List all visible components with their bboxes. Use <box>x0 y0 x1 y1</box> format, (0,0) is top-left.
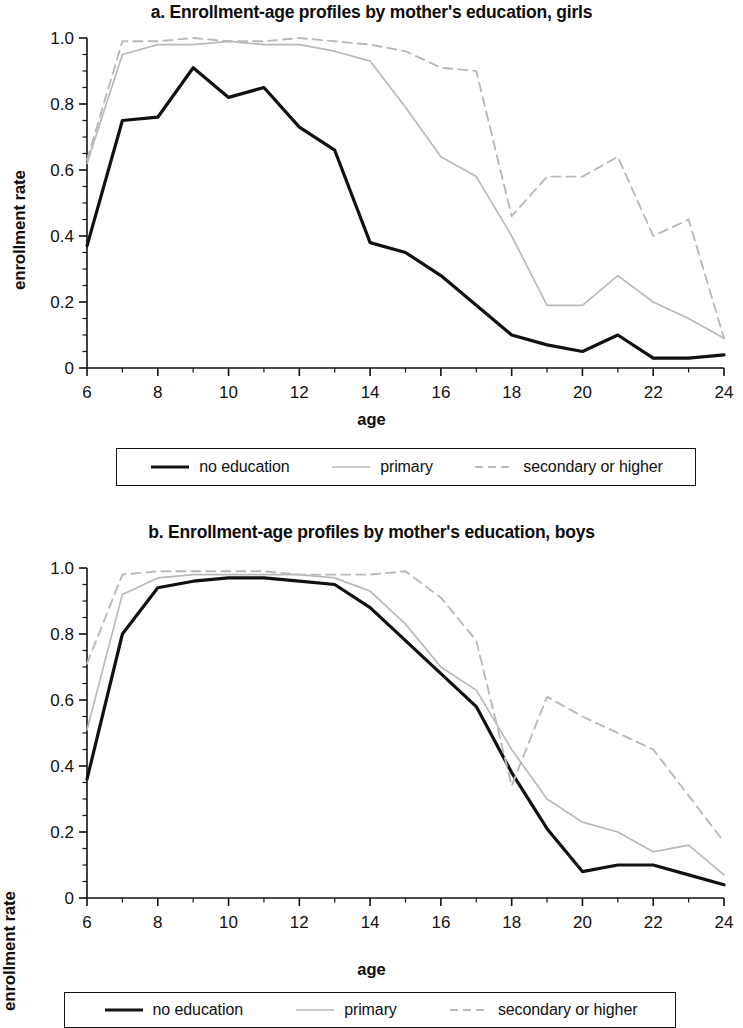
x-tick-label: 20 <box>573 913 592 932</box>
y-tick-label: 1.0 <box>50 29 74 48</box>
legend-label: primary <box>380 458 433 476</box>
panel-b-chart-svg: 00.20.40.60.81.0681012141618202224 <box>0 550 743 950</box>
y-tick-label: 0 <box>65 889 74 908</box>
panel-a-girls: a. Enrollment-age profiles by mother's e… <box>0 0 743 500</box>
legend-swatch-solid-icon <box>294 1003 336 1017</box>
y-tick-label: 0.2 <box>50 823 74 842</box>
panel-b-y-axis-label: enrollment rate <box>0 891 20 1011</box>
x-tick-label: 22 <box>644 913 663 932</box>
x-tick-label: 14 <box>361 383 380 400</box>
x-tick-label: 10 <box>219 913 238 932</box>
y-tick-label: 0 <box>65 359 74 378</box>
legend-item-secondary-or-higher[interactable]: secondary or higher <box>448 1001 638 1019</box>
y-tick-label: 0.8 <box>50 625 74 644</box>
panel-b-legend: no educationprimarysecondary or higher <box>64 992 676 1028</box>
panel-b-x-axis-label: age <box>0 960 743 979</box>
x-tick-label: 6 <box>82 383 91 400</box>
y-tick-label: 0.2 <box>50 293 74 312</box>
x-tick-label: 18 <box>502 913 521 932</box>
x-tick-label: 18 <box>502 383 521 400</box>
legend-item-no-education[interactable]: no education <box>149 458 289 476</box>
y-tick-label: 0.6 <box>50 691 74 710</box>
legend-item-primary[interactable]: primary <box>330 458 433 476</box>
x-tick-label: 12 <box>290 913 309 932</box>
legend-swatch-solid-icon <box>330 460 372 474</box>
y-tick-label: 0.4 <box>50 757 74 776</box>
panel-b-plot-area: 00.20.40.60.81.0681012141618202224 <box>0 550 743 950</box>
panel-a-chart-svg: 00.20.40.60.81.0681012141618202224 <box>0 0 743 400</box>
series-line-primary <box>87 41 724 338</box>
panel-a-legend: no educationprimarysecondary or higher <box>116 448 696 486</box>
panel-b-title: b. Enrollment-age profiles by mother's e… <box>0 522 743 543</box>
legend-label: primary <box>344 1001 397 1019</box>
series-line-primary <box>87 575 724 875</box>
legend-label: no education <box>199 458 289 476</box>
x-tick-label: 16 <box>431 913 450 932</box>
x-tick-label: 24 <box>715 913 734 932</box>
panel-a-x-axis-label: age <box>0 410 743 429</box>
legend-swatch-dashed-icon <box>448 1003 490 1017</box>
legend-label: secondary or higher <box>523 458 663 476</box>
x-tick-label: 8 <box>153 913 162 932</box>
x-tick-label: 16 <box>431 383 450 400</box>
legend-swatch-solid-icon <box>149 460 191 474</box>
x-tick-label: 10 <box>219 383 238 400</box>
x-tick-label: 14 <box>361 913 380 932</box>
y-tick-label: 1.0 <box>50 559 74 578</box>
legend-item-secondary-or-higher[interactable]: secondary or higher <box>473 458 663 476</box>
y-tick-label: 0.6 <box>50 161 74 180</box>
x-tick-label: 20 <box>573 383 592 400</box>
y-tick-label: 0.8 <box>50 95 74 114</box>
legend-swatch-dashed-icon <box>473 460 515 474</box>
y-tick-label: 0.4 <box>50 227 74 246</box>
x-tick-label: 6 <box>82 913 91 932</box>
series-line-no-education <box>87 68 724 358</box>
panel-a-plot-area: 00.20.40.60.81.0681012141618202224 <box>0 0 743 400</box>
legend-label: no education <box>153 1001 243 1019</box>
x-tick-label: 8 <box>153 383 162 400</box>
x-tick-label: 12 <box>290 383 309 400</box>
x-tick-label: 22 <box>644 383 663 400</box>
panel-b-boys: b. Enrollment-age profiles by mother's e… <box>0 500 743 1011</box>
legend-item-primary[interactable]: primary <box>294 1001 397 1019</box>
legend-label: secondary or higher <box>498 1001 638 1019</box>
x-tick-label: 24 <box>715 383 734 400</box>
legend-item-no-education[interactable]: no education <box>103 1001 243 1019</box>
series-line-secondary-or-higher <box>87 571 724 842</box>
legend-swatch-solid-icon <box>103 1003 145 1017</box>
